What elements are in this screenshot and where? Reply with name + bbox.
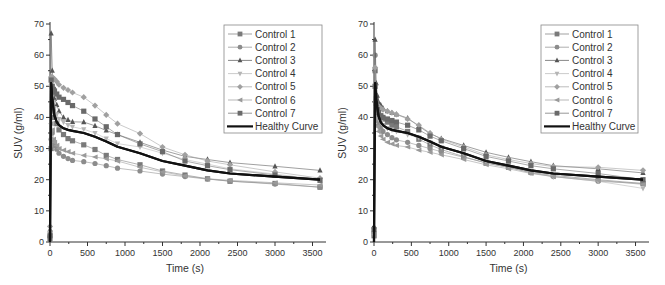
x-tick-label: 3000 [588,248,608,258]
y-tick-label: 50 [358,81,368,91]
legend-label: Control 5 [572,81,613,92]
legend-label: Control 7 [572,108,613,119]
legend-label: Control 1 [572,29,613,40]
legend-label: Control 2 [572,42,613,53]
y-tick-label: 70 [358,19,368,29]
y-tick-label: 10 [358,206,368,216]
legend-label: Healthy Curve [572,121,636,132]
x-tick-label: 2500 [551,248,571,258]
legend-label: Control 3 [572,55,613,66]
figure: 0102030405060700500100015002000250030003… [0,0,665,285]
x-tick-label: 3500 [626,248,646,258]
legend-label: Control 4 [572,68,613,79]
y-tick-label: 60 [358,50,368,60]
x-tick-label: 2000 [513,248,533,258]
x-tick-label: 0 [371,248,376,258]
x-tick-label: 1000 [439,248,459,258]
legend-label: Control 6 [572,95,613,106]
y-axis-title: SUV (g/ml) [336,107,348,158]
x-axis-title: Time (s) [489,262,527,274]
chart-right: 0102030405060700500100015002000250030003… [0,0,665,285]
y-tick-label: 20 [358,175,368,185]
y-tick-label: 30 [358,144,368,154]
x-tick-label: 1500 [476,248,496,258]
y-tick-label: 0 [363,237,368,247]
x-tick-label: 500 [404,248,419,258]
legend: Control 1Control 2Control 3Control 4Cont… [541,25,638,133]
y-tick-label: 40 [358,112,368,122]
